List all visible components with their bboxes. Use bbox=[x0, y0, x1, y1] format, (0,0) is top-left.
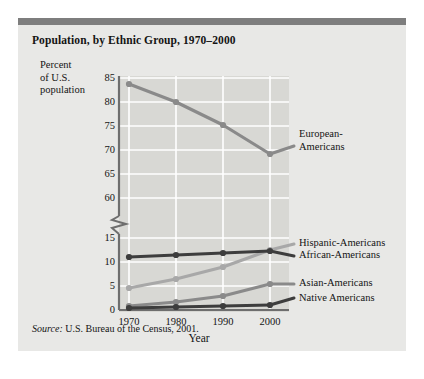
series-label-african-americans: African-Americans bbox=[299, 249, 380, 262]
series-label-european-line-2: Americans bbox=[299, 141, 344, 154]
series-label-native-americans: Native Americans bbox=[299, 292, 375, 305]
series-label-asian-americans: Asian-Americans bbox=[299, 277, 372, 290]
figure-source-prefix: Source: bbox=[32, 323, 63, 334]
series-label-european-americans: European- Americans bbox=[299, 128, 344, 153]
series-label-european-line-1: European- bbox=[299, 128, 344, 141]
plot-background bbox=[119, 76, 289, 312]
series-label-hispanic-americans: Hispanic-Americans bbox=[299, 237, 385, 250]
figure-source-text: U.S. Bureau of the Census, 2001. bbox=[63, 323, 199, 334]
figure-source: Source: U.S. Bureau of the Census, 2001. bbox=[32, 323, 199, 334]
figure-card: Population, by Ethnic Group, 1970–2000 P… bbox=[18, 18, 406, 351]
